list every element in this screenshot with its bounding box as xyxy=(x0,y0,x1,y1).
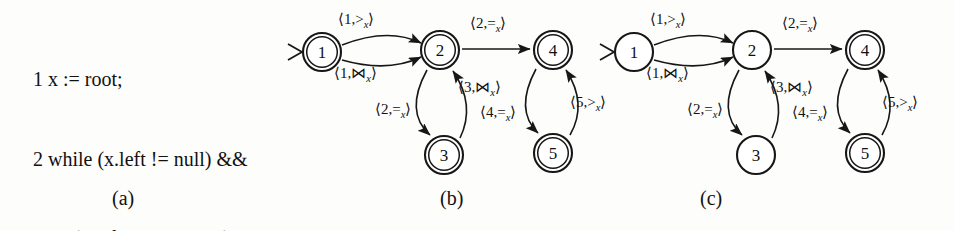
state-label: 5 xyxy=(549,144,558,163)
code-line: (x.left.right != null) xyxy=(33,225,248,231)
state-label: 3 xyxy=(752,146,761,165)
state-node-5[interactable]: 5 xyxy=(534,134,572,172)
state-label: 4 xyxy=(861,41,870,60)
edge-label-1-2-gt: ⟨1,>x⟩ xyxy=(338,12,374,32)
edge-label-3-2-bowtie: ⟨3,⋈x⟩ xyxy=(458,80,501,100)
state-node-5[interactable]: 5 xyxy=(846,134,884,172)
edge-label-2-4-eq: ⟨2,=x⟩ xyxy=(782,16,818,36)
state-node-3[interactable]: 3 xyxy=(737,136,775,174)
panel-automaton-c: 1 2 3 4 5 ⟨1,>x⟩ ⟨1,⋈x⟩ ⟨2,=x⟩ xyxy=(592,0,922,231)
edge-1-2-gt xyxy=(342,35,421,45)
state-node-3[interactable]: 3 xyxy=(425,136,463,174)
edge-label-1-2-bowtie: ⟨1,⋈x⟩ xyxy=(334,66,377,86)
edge-4-5-eq xyxy=(525,69,538,133)
edge-label-4-5-eq: ⟨4,=x⟩ xyxy=(480,105,516,125)
state-label: 4 xyxy=(549,41,558,60)
edge-label-3-2-bowtie: ⟨3,⋈x⟩ xyxy=(770,80,813,100)
state-label: 1 xyxy=(318,43,327,62)
start-arrow-c xyxy=(600,44,614,60)
edge-4-5-eq xyxy=(837,69,850,133)
state-label: 3 xyxy=(440,146,449,165)
panel-pseudocode: 1 x := root; 2 while (x.left != null) &&… xyxy=(0,0,290,231)
state-label: 5 xyxy=(861,144,870,163)
state-label: 2 xyxy=(748,41,757,60)
edge-2-3-eq xyxy=(728,70,742,135)
edge-label-1-2-bowtie: ⟨1,⋈x⟩ xyxy=(646,66,689,86)
code-line: 2 while (x.left != null) && xyxy=(33,146,248,173)
edge-2-3-eq xyxy=(416,70,430,135)
caption-b: (b) xyxy=(440,188,463,208)
caption-c: (c) xyxy=(700,188,722,208)
pseudocode-block: 1 x := root; 2 while (x.left != null) &&… xyxy=(33,13,248,231)
state-node-2[interactable]: 2 xyxy=(421,31,459,69)
edge-label-4-5-eq: ⟨4,=x⟩ xyxy=(792,105,828,125)
edge-label-2-3-eq: ⟨2,=x⟩ xyxy=(375,102,411,122)
state-node-2[interactable]: 2 xyxy=(733,31,771,69)
code-line: 1 x := root; xyxy=(33,66,248,93)
caption-a: (a) xyxy=(112,188,134,208)
state-label: 1 xyxy=(630,43,639,62)
edge-label-2-4-eq: ⟨2,=x⟩ xyxy=(470,16,506,36)
state-node-4[interactable]: 4 xyxy=(846,31,884,69)
start-arrow-b xyxy=(288,44,302,60)
edge-label-2-3-eq: ⟨2,=x⟩ xyxy=(687,102,723,122)
figure-root: 1 x := root; 2 while (x.left != null) &&… xyxy=(0,0,954,231)
automaton-c-graph: 1 2 3 4 5 xyxy=(592,0,922,200)
edge-label-1-2-gt: ⟨1,>x⟩ xyxy=(650,12,686,32)
state-node-4[interactable]: 4 xyxy=(534,31,572,69)
state-label: 2 xyxy=(436,41,445,60)
edge-1-2-gt xyxy=(654,35,733,45)
edge-label-5-4-gt: ⟨5,>x⟩ xyxy=(882,95,918,115)
automaton-b-graph: 1 2 3 4 5 xyxy=(280,0,610,200)
